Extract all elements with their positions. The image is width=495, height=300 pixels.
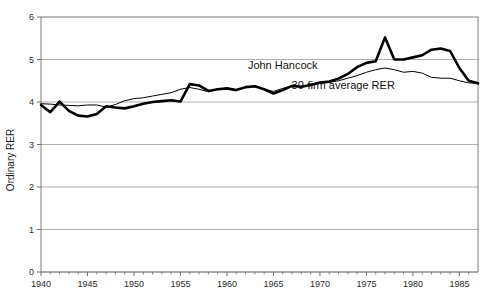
y-tick-label-5: 5 bbox=[29, 55, 34, 65]
x-tick-label-1960: 1960 bbox=[217, 279, 237, 289]
ordinary-rer-line-chart: 1940194519501955196019651970197519801985… bbox=[0, 0, 495, 300]
chart-container: 1940194519501955196019651970197519801985… bbox=[0, 0, 495, 300]
x-tick-label-1940: 1940 bbox=[31, 279, 51, 289]
chart-background bbox=[0, 0, 495, 300]
series-label-john-hancock: John Hancock bbox=[248, 59, 318, 71]
x-tick-label-1985: 1985 bbox=[449, 279, 469, 289]
x-tick-label-1975: 1975 bbox=[356, 279, 376, 289]
x-tick-label-1965: 1965 bbox=[263, 279, 283, 289]
x-tick-label-1945: 1945 bbox=[77, 279, 97, 289]
y-tick-label-2: 2 bbox=[29, 182, 34, 192]
x-tick-label-1950: 1950 bbox=[124, 279, 144, 289]
series-label-thirty-firm-average: 30-firm average RER bbox=[292, 79, 395, 91]
y-tick-label-6: 6 bbox=[29, 12, 34, 22]
y-axis-title: Ordinary RER bbox=[5, 129, 16, 191]
y-tick-label-4: 4 bbox=[29, 97, 34, 107]
y-tick-label-0: 0 bbox=[29, 267, 34, 277]
y-tick-label-3: 3 bbox=[29, 140, 34, 150]
x-tick-label-1970: 1970 bbox=[310, 279, 330, 289]
y-tick-label-1: 1 bbox=[29, 225, 34, 235]
x-tick-label-1955: 1955 bbox=[170, 279, 190, 289]
x-tick-label-1980: 1980 bbox=[403, 279, 423, 289]
